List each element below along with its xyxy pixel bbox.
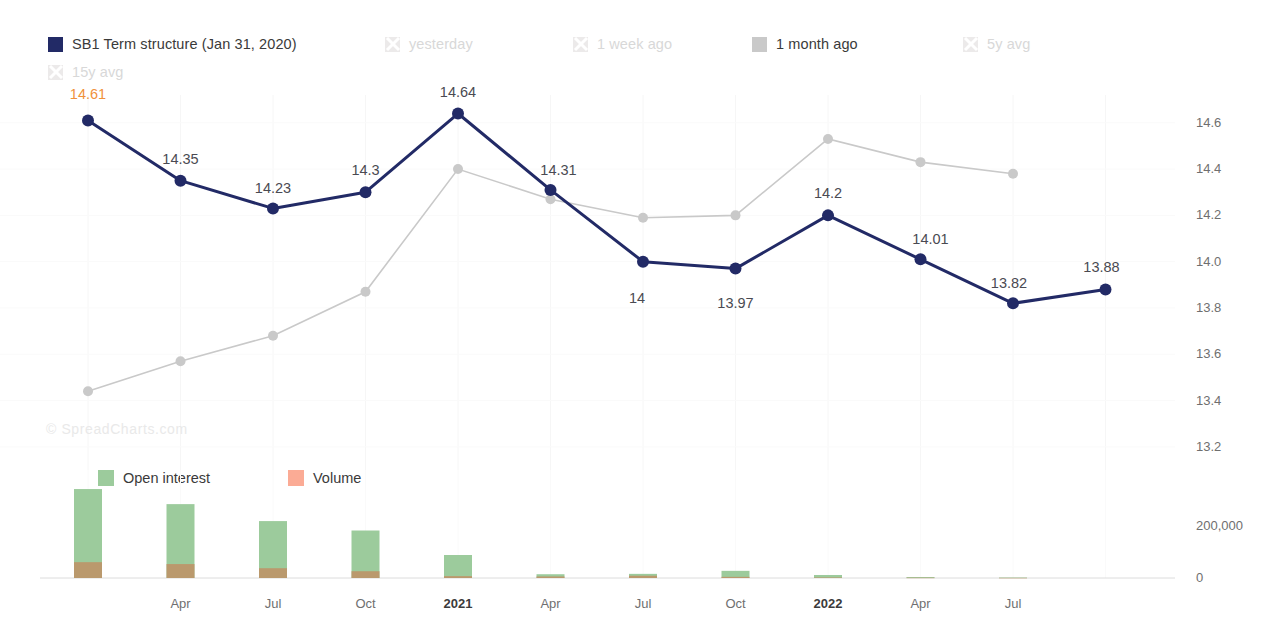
legend-swatch-enabled — [48, 37, 63, 52]
legend-label: 1 week ago — [597, 36, 672, 52]
x-axis-tick-label: Oct — [355, 596, 375, 611]
series-point-sb1-term-structure — [175, 175, 187, 187]
legend-label: 1 month ago — [776, 36, 858, 52]
legend-item-5y-avg[interactable]: 5y avg — [963, 30, 1030, 58]
data-label: 14.61 — [70, 86, 106, 102]
watermark: © SpreadCharts.com — [46, 421, 188, 437]
y-axis-tick-label: 14.6 — [1196, 115, 1221, 130]
series-point-sb1-term-structure — [822, 209, 834, 221]
series-point-1-month-ago — [1008, 169, 1018, 179]
y-axis-tick-label: 13.8 — [1196, 300, 1221, 315]
bar-volume — [167, 564, 195, 578]
data-label: 14.35 — [162, 151, 198, 167]
legend-label: 5y avg — [987, 36, 1030, 52]
legend-item-15y-avg[interactable]: 15y avg — [48, 58, 124, 86]
x-axis-tick-label: Apr — [910, 596, 930, 611]
legend-item-yesterday[interactable]: yesterday — [385, 30, 473, 58]
data-label: 14.31 — [540, 162, 576, 178]
series-point-sb1-term-structure — [730, 263, 742, 275]
volume-chart-svg — [0, 470, 1281, 642]
series-point-sb1-term-structure — [82, 114, 94, 126]
series-point-sb1-term-structure — [360, 186, 372, 198]
legend-row-2: 15y avg — [48, 58, 1108, 86]
legend-item-1-month-ago[interactable]: 1 month ago — [752, 30, 858, 58]
series-point-1-month-ago — [731, 210, 741, 220]
bar-volume — [352, 571, 380, 578]
data-label: 14 — [629, 290, 645, 306]
series-point-sb1-term-structure — [452, 108, 464, 120]
open-interest-volume-plot: 200,0000AprJulOct2021AprJulOct2022AprJul — [0, 470, 1281, 642]
y-axis-tick-label: 13.6 — [1196, 346, 1221, 361]
bar-volume — [999, 578, 1027, 579]
series-point-sb1-term-structure — [267, 202, 279, 214]
legend-item-1-week-ago[interactable]: 1 week ago — [573, 30, 672, 58]
legend-swatch-disabled — [963, 37, 978, 52]
series-point-sb1-term-structure — [1100, 283, 1112, 295]
series-point-1-month-ago — [361, 287, 371, 297]
series-point-1-month-ago — [268, 331, 278, 341]
series-point-sb1-term-structure — [637, 256, 649, 268]
y-axis-tick-label: 13.2 — [1196, 439, 1221, 454]
bar-volume — [629, 576, 657, 578]
legend-swatch-disabled — [573, 37, 588, 52]
x-axis-tick-label: 2021 — [444, 596, 473, 611]
y-axis-tick-label: 14.0 — [1196, 254, 1221, 269]
legend-row-1: SB1 Term structure (Jan 31, 2020)yesterd… — [48, 30, 1108, 58]
chart-legend: SB1 Term structure (Jan 31, 2020)yesterd… — [48, 30, 1108, 86]
series-point-sb1-term-structure — [915, 253, 927, 265]
data-label: 14.01 — [912, 231, 948, 247]
x-axis-tick-label: Oct — [725, 596, 745, 611]
series-point-1-month-ago — [823, 134, 833, 144]
bar-open-interest — [352, 531, 380, 578]
series-point-1-month-ago — [638, 213, 648, 223]
data-label: 14.23 — [255, 180, 291, 196]
data-label: 13.82 — [991, 275, 1027, 291]
series-point-sb1-term-structure — [545, 184, 557, 196]
secondary-y-axis-tick-label: 200,000 — [1196, 518, 1243, 533]
data-label: 14.3 — [351, 162, 379, 178]
bar-volume — [814, 577, 842, 578]
x-axis-tick-label: Jul — [635, 596, 652, 611]
data-label: 14.2 — [814, 185, 842, 201]
legend-swatch-disabled — [385, 37, 400, 52]
y-axis-tick-label: 14.2 — [1196, 207, 1221, 222]
data-label: 13.88 — [1083, 259, 1119, 275]
bar-volume — [444, 576, 472, 578]
legend-swatch-enabled — [752, 37, 767, 52]
bar-volume — [537, 576, 565, 578]
secondary-y-axis-tick-label: 0 — [1196, 570, 1203, 585]
legend-item-sb1-term-structure-jan-31-2020[interactable]: SB1 Term structure (Jan 31, 2020) — [48, 30, 297, 58]
price-chart-plot: 14.6114.3514.2314.314.6414.311413.9714.2… — [0, 95, 1281, 470]
x-axis-tick-label: Jul — [1005, 596, 1022, 611]
x-axis-tick-label: Apr — [540, 596, 560, 611]
data-label: 13.97 — [717, 295, 753, 311]
series-point-1-month-ago — [176, 356, 186, 366]
legend-label: yesterday — [409, 36, 473, 52]
y-axis-tick-label: 14.4 — [1196, 161, 1221, 176]
bar-open-interest — [444, 555, 472, 578]
data-label: 14.64 — [440, 84, 476, 100]
legend-label: SB1 Term structure (Jan 31, 2020) — [72, 36, 297, 52]
bar-volume — [74, 562, 102, 578]
x-axis-tick-label: Jul — [265, 596, 282, 611]
series-point-sb1-term-structure — [1007, 297, 1019, 309]
legend-swatch-disabled — [48, 65, 63, 80]
legend-label: 15y avg — [72, 64, 124, 80]
bar-volume — [722, 577, 750, 578]
series-point-1-month-ago — [453, 164, 463, 174]
x-axis-tick-label: 2022 — [814, 596, 843, 611]
series-point-1-month-ago — [83, 386, 93, 396]
bar-volume — [907, 578, 935, 579]
y-axis-tick-label: 13.4 — [1196, 393, 1221, 408]
bar-volume — [259, 568, 287, 578]
x-axis-tick-label: Apr — [170, 596, 190, 611]
series-point-1-month-ago — [916, 157, 926, 167]
